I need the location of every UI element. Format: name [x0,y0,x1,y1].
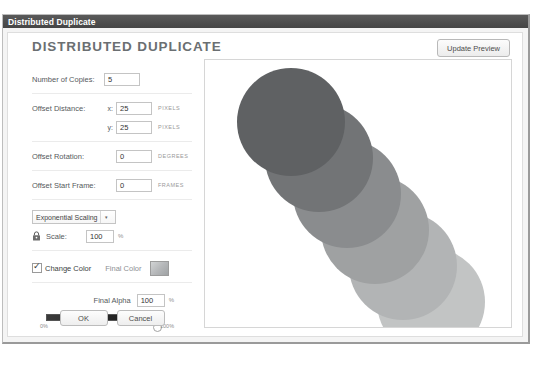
scale-label: Scale: [46,232,86,241]
number-of-copies-input[interactable]: 5 [104,73,140,86]
offset-rotation-unit-label: DEGREES [158,153,188,159]
dialog-body: DISTRIBUTED DUPLICATE Update Preview Num… [7,32,523,337]
offset-distance-group: Offset Distance: x: 25 PIXELS y: 25 PIXE… [32,94,192,142]
offset-y-input[interactable]: 25 [116,121,152,134]
scaling-mode-select[interactable]: Exponential Scaling ▾ [32,210,116,224]
final-alpha-label: Final Alpha [94,296,131,305]
final-alpha-row: Final Alpha 100 % [32,291,192,309]
scale-row: Scale: 100 % [32,227,192,245]
ok-button[interactable]: OK [60,310,108,326]
window-title: Distributed Duplicate [3,17,96,27]
offset-distance-y-row: y: 25 PIXELS [32,118,192,136]
final-color-swatch[interactable] [150,261,169,276]
scaling-select-row: Exponential Scaling ▾ [32,208,192,226]
scale-input[interactable]: 100 [86,230,114,243]
settings-panel: Number of Copies: 5 Offset Distance: x: … [32,65,192,328]
window-titlebar[interactable]: Distributed Duplicate [3,15,528,28]
change-color-label: Change Color [45,264,91,273]
offset-y-unit-label: PIXELS [158,124,180,130]
change-color-checkbox[interactable] [32,263,42,273]
number-of-copies-row: Number of Copies: 5 [32,70,192,88]
offset-start-frame-unit-label: FRAMES [158,182,184,188]
cancel-button[interactable]: Cancel [117,310,165,326]
preview-panel[interactable] [204,59,512,328]
offset-start-frame-group: Offset Start Frame: 0 FRAMES [32,171,192,200]
offset-distance-x-row: Offset Distance: x: 25 PIXELS [32,99,192,117]
chevron-down-icon: ▾ [100,211,112,223]
offset-rotation-group: Offset Rotation: 0 DEGREES [32,142,192,171]
scaling-mode-value: Exponential Scaling [36,214,100,221]
copies-group: Number of Copies: 5 [32,65,192,94]
scale-unit-label: % [118,233,123,239]
offset-x-unit-label: PIXELS [158,105,180,111]
final-alpha-input[interactable]: 100 [137,294,165,307]
final-color-label: Final Color [105,264,141,273]
offset-start-frame-row: Offset Start Frame: 0 FRAMES [32,176,192,194]
preview-circle [237,68,345,176]
offset-rotation-input[interactable]: 0 [116,150,152,163]
dialog-button-bar: OK Cancel [32,310,192,326]
dialog-window: Distributed Duplicate DISTRIBUTED DUPLIC… [2,14,530,344]
offset-distance-label: Offset Distance: [32,104,104,113]
offset-y-axis-label: y: [104,124,113,131]
offset-x-input[interactable]: 25 [116,102,152,115]
offset-start-frame-label: Offset Start Frame: [32,181,116,190]
offset-rotation-row: Offset Rotation: 0 DEGREES [32,147,192,165]
change-color-row: Change Color Final Color [32,259,192,277]
change-color-group: Change Color Final Color [32,251,192,283]
scaling-group: Exponential Scaling ▾ Scale: 100 % [32,200,192,251]
lock-icon[interactable] [32,231,41,241]
final-alpha-unit-label: % [169,297,174,303]
number-of-copies-label: Number of Copies: [32,75,104,84]
offset-rotation-label: Offset Rotation: [32,152,116,161]
update-preview-button[interactable]: Update Preview [437,39,510,57]
offset-start-frame-input[interactable]: 0 [116,179,152,192]
page-title: DISTRIBUTED DUPLICATE [32,39,222,54]
offset-x-axis-label: x: [104,105,113,112]
